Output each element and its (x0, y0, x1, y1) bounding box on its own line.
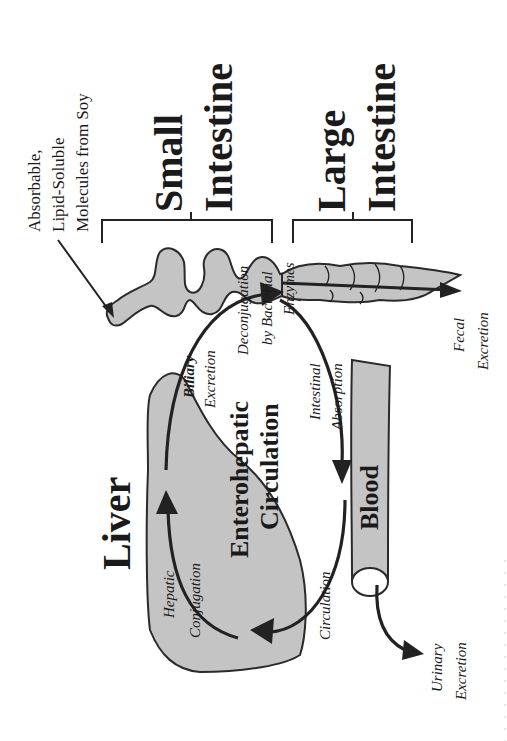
conjugation-label: Conjugation (187, 563, 203, 638)
circulation-process-label: Circulation (317, 571, 333, 640)
blood-vessel-opening (352, 568, 388, 596)
input-label-line-2: Lipid-Soluble (49, 138, 68, 232)
loop-arrowhead-absorption (332, 460, 352, 484)
intestine-label-large: Intestine (359, 63, 404, 212)
urinary-label: Urinary (429, 643, 445, 692)
excretion-biliary-label: Excretion (202, 350, 218, 409)
by-bacterial-label: by Bacterial (259, 271, 275, 345)
large-label: Large (309, 110, 354, 212)
intestine-label-small: Intestine (196, 63, 241, 212)
fecal-label: Fecal (451, 318, 467, 353)
intestinal-label: Intestinal (307, 363, 323, 421)
enterohepatic-diagram: Absorbable, Lipid-Soluble Molecules from… (0, 0, 507, 741)
deconjugation-label: Deconjugation (235, 266, 251, 356)
absorption-label: Absorption (329, 363, 345, 431)
hepatic-label: Hepatic (161, 570, 177, 619)
small-intestine-bracket (102, 212, 272, 243)
urinary-arrow-head (402, 640, 424, 660)
fecal-arrow-head (440, 282, 462, 298)
blood-label: Blood (355, 464, 384, 530)
enterohepatic-label: Enterohepatic (225, 401, 254, 558)
biliary-label: Biliary (181, 355, 197, 399)
fecal-excretion-label: Excretion (475, 312, 491, 371)
input-label-line-3: Molecules from Soy (73, 93, 92, 232)
urinary-arrow (377, 585, 405, 650)
urinary-excretion-label: Excretion (453, 642, 469, 701)
small-label: Small (146, 114, 191, 212)
liver-label: Liver (94, 477, 139, 570)
large-intestine-bracket (293, 212, 412, 243)
input-arrow-line (58, 240, 110, 312)
circulation-label: Circulation (255, 403, 284, 530)
enzymes-label: Enzymes (281, 262, 297, 316)
input-label-line-1: Absorbable, (25, 149, 44, 232)
